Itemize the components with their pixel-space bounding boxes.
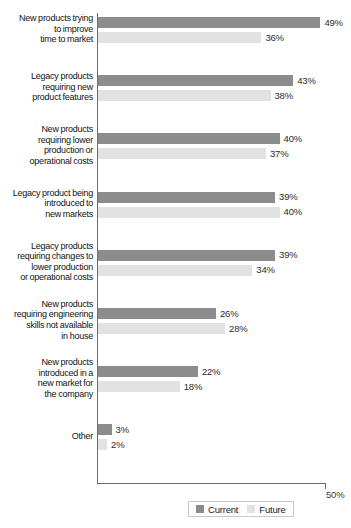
bar-value-label: 39% [279,249,297,260]
bar-row-future: 37% [98,148,325,159]
bar-current[interactable] [98,17,320,28]
bar-future[interactable] [98,381,180,392]
bar-row-current: 43% [98,75,325,86]
legend-label-future: Future [259,504,285,515]
bar-current[interactable] [98,133,280,144]
bar-future[interactable] [98,207,280,218]
bar-row-current: 40% [98,133,325,144]
legend-swatch-future-icon [247,505,255,513]
bar-future[interactable] [98,32,261,43]
bar-value-label: 34% [256,264,274,275]
bar-future[interactable] [98,148,266,159]
bar-value-label: 36% [265,32,283,43]
category-label: Legacy productsrequiring newproduct feat… [0,71,93,103]
bar-row-future: 18% [98,381,325,392]
bar-future[interactable] [98,323,225,334]
legend-label-current: Current [208,504,238,515]
legend-item-future[interactable]: Future [247,504,285,515]
bar-row-current: 49% [98,17,325,28]
bar-current[interactable] [98,192,275,203]
bar-row-future: 36% [98,32,325,43]
chart-legend: Current Future [188,501,294,517]
bar-row-future: 34% [98,265,325,276]
bar-row-future: 38% [98,90,325,101]
bar-current[interactable] [98,75,293,86]
legend-swatch-current-icon [196,505,204,513]
bar-current[interactable] [98,366,198,377]
bar-value-label: 43% [297,75,315,86]
bar-row-current: 3% [98,424,325,435]
bar-row-future: 40% [98,207,325,218]
category-label: Other [0,431,93,442]
bar-row-current: 39% [98,250,325,261]
category-label: Legacy product beingintroduced tonew mar… [0,188,93,220]
bar-value-label: 26% [220,308,238,319]
bar-future[interactable] [98,439,107,450]
bar-value-label: 28% [229,323,247,334]
bar-value-label: 38% [275,90,293,101]
bar-row-future: 28% [98,323,325,334]
bar-value-label: 37% [270,148,288,159]
category-label: New productsintroduced in anew market fo… [0,357,93,399]
bar-value-label: 22% [202,366,220,377]
bar-row-current: 39% [98,192,325,203]
bar-value-label: 39% [279,191,297,202]
bar-current[interactable] [98,424,112,435]
bar-value-label: 18% [184,381,202,392]
bar-groups: New products tryingto improvetime to mar… [0,0,351,528]
bar-value-label: 2% [111,439,124,450]
bar-value-label: 49% [324,17,342,28]
category-label: New products tryingto improvetime to mar… [0,13,93,45]
bar-value-label: 3% [116,424,129,435]
legend-item-current[interactable]: Current [196,504,238,515]
category-label: New productsrequiring lowerproduction or… [0,124,93,166]
bar-future[interactable] [98,90,271,101]
bar-row-current: 22% [98,366,325,377]
bar-current[interactable] [98,308,216,319]
bar-chart: 50% New products tryingto improvetime to… [0,0,351,528]
bar-value-label: 40% [284,206,302,217]
bar-row-current: 26% [98,308,325,319]
bar-current[interactable] [98,250,275,261]
bar-row-future: 2% [98,439,325,450]
bar-future[interactable] [98,265,252,276]
bar-value-label: 40% [284,133,302,144]
category-label: Legacy productsrequiring changes tolower… [0,241,93,283]
category-label: New productsrequiring engineeringskills … [0,299,93,341]
